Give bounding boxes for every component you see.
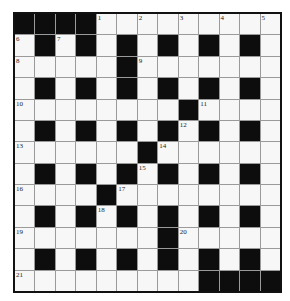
letter-cell[interactable]: 3 xyxy=(179,14,198,34)
letter-cell[interactable]: 11 xyxy=(199,100,218,120)
letter-cell[interactable] xyxy=(15,78,34,98)
letter-cell[interactable] xyxy=(56,164,75,184)
letter-cell[interactable] xyxy=(220,164,239,184)
letter-cell[interactable] xyxy=(15,164,34,184)
letter-cell[interactable]: 4 xyxy=(220,14,239,34)
letter-cell[interactable] xyxy=(138,206,157,226)
letter-cell[interactable] xyxy=(76,100,95,120)
letter-cell[interactable] xyxy=(35,100,54,120)
letter-cell[interactable] xyxy=(35,185,54,205)
letter-cell[interactable] xyxy=(35,142,54,162)
letter-cell[interactable]: 21 xyxy=(15,271,34,291)
letter-cell[interactable] xyxy=(97,35,116,55)
letter-cell[interactable] xyxy=(138,185,157,205)
letter-cell[interactable] xyxy=(179,142,198,162)
letter-cell[interactable] xyxy=(35,57,54,77)
letter-cell[interactable] xyxy=(179,249,198,269)
letter-cell[interactable] xyxy=(56,271,75,291)
letter-cell[interactable] xyxy=(220,249,239,269)
letter-cell[interactable] xyxy=(97,121,116,141)
letter-cell[interactable] xyxy=(179,57,198,77)
letter-cell[interactable]: 15 xyxy=(138,164,157,184)
letter-cell[interactable] xyxy=(261,57,280,77)
letter-cell[interactable] xyxy=(158,185,177,205)
letter-cell[interactable] xyxy=(179,185,198,205)
letter-cell[interactable] xyxy=(138,249,157,269)
letter-cell[interactable] xyxy=(220,142,239,162)
letter-cell[interactable] xyxy=(179,164,198,184)
letter-cell[interactable] xyxy=(138,228,157,248)
letter-cell[interactable]: 16 xyxy=(15,185,34,205)
letter-cell[interactable] xyxy=(35,228,54,248)
letter-cell[interactable] xyxy=(261,164,280,184)
letter-cell[interactable] xyxy=(138,100,157,120)
letter-cell[interactable]: 17 xyxy=(117,185,136,205)
letter-cell[interactable]: 12 xyxy=(179,121,198,141)
letter-cell[interactable] xyxy=(15,206,34,226)
letter-cell[interactable] xyxy=(179,35,198,55)
letter-cell[interactable] xyxy=(138,271,157,291)
letter-cell[interactable]: 19 xyxy=(15,228,34,248)
letter-cell[interactable]: 14 xyxy=(158,142,177,162)
letter-cell[interactable] xyxy=(56,142,75,162)
letter-cell[interactable] xyxy=(220,228,239,248)
letter-cell[interactable]: 5 xyxy=(261,14,280,34)
letter-cell[interactable] xyxy=(76,228,95,248)
letter-cell[interactable] xyxy=(240,57,259,77)
letter-cell[interactable] xyxy=(15,249,34,269)
letter-cell[interactable] xyxy=(220,35,239,55)
letter-cell[interactable] xyxy=(220,78,239,98)
letter-cell[interactable] xyxy=(56,78,75,98)
letter-cell[interactable] xyxy=(199,57,218,77)
letter-cell[interactable] xyxy=(138,78,157,98)
letter-cell[interactable] xyxy=(199,228,218,248)
letter-cell[interactable]: 9 xyxy=(138,57,157,77)
letter-cell[interactable] xyxy=(56,100,75,120)
letter-cell[interactable] xyxy=(56,121,75,141)
letter-cell[interactable] xyxy=(56,206,75,226)
letter-cell[interactable]: 18 xyxy=(97,206,116,226)
letter-cell[interactable] xyxy=(158,100,177,120)
letter-cell[interactable]: 20 xyxy=(179,228,198,248)
letter-cell[interactable] xyxy=(117,142,136,162)
letter-cell[interactable] xyxy=(261,142,280,162)
letter-cell[interactable]: 13 xyxy=(15,142,34,162)
letter-cell[interactable]: 8 xyxy=(15,57,34,77)
letter-cell[interactable] xyxy=(117,228,136,248)
letter-cell[interactable] xyxy=(261,78,280,98)
letter-cell[interactable] xyxy=(261,185,280,205)
letter-cell[interactable] xyxy=(158,271,177,291)
letter-cell[interactable] xyxy=(97,142,116,162)
letter-cell[interactable] xyxy=(76,185,95,205)
letter-cell[interactable] xyxy=(138,35,157,55)
letter-cell[interactable] xyxy=(261,100,280,120)
letter-cell[interactable] xyxy=(199,142,218,162)
letter-cell[interactable] xyxy=(220,185,239,205)
letter-cell[interactable] xyxy=(35,271,54,291)
letter-cell[interactable] xyxy=(76,142,95,162)
letter-cell[interactable] xyxy=(261,35,280,55)
letter-cell[interactable] xyxy=(56,228,75,248)
letter-cell[interactable] xyxy=(220,121,239,141)
letter-cell[interactable] xyxy=(117,14,136,34)
letter-cell[interactable]: 6 xyxy=(15,35,34,55)
letter-cell[interactable] xyxy=(240,228,259,248)
letter-cell[interactable] xyxy=(56,249,75,269)
letter-cell[interactable] xyxy=(97,57,116,77)
letter-cell[interactable] xyxy=(97,249,116,269)
letter-cell[interactable] xyxy=(76,57,95,77)
letter-cell[interactable] xyxy=(240,142,259,162)
letter-cell[interactable]: 1 xyxy=(97,14,116,34)
letter-cell[interactable] xyxy=(158,14,177,34)
letter-cell[interactable] xyxy=(138,121,157,141)
letter-cell[interactable]: 2 xyxy=(138,14,157,34)
letter-cell[interactable] xyxy=(240,185,259,205)
letter-cell[interactable] xyxy=(199,14,218,34)
letter-cell[interactable] xyxy=(261,206,280,226)
letter-cell[interactable] xyxy=(97,100,116,120)
letter-cell[interactable] xyxy=(15,121,34,141)
letter-cell[interactable] xyxy=(261,249,280,269)
letter-cell[interactable] xyxy=(158,57,177,77)
letter-cell[interactable] xyxy=(97,271,116,291)
letter-cell[interactable] xyxy=(76,271,95,291)
